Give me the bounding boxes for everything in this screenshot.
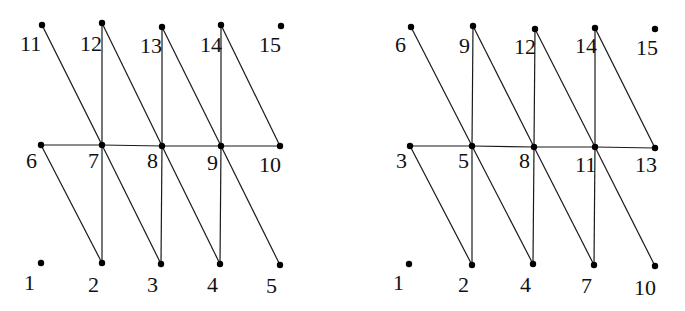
vertex-13 xyxy=(159,24,165,30)
vertex-8 xyxy=(159,143,165,149)
vertex-label: 13 xyxy=(140,33,162,58)
vertex-label: 9 xyxy=(459,33,470,58)
vertex-11 xyxy=(592,144,598,150)
vertex-label: 14 xyxy=(575,33,597,58)
vertex-label: 3 xyxy=(396,148,407,173)
vertex-1 xyxy=(406,261,412,267)
vertex-4 xyxy=(530,261,536,267)
vertex-label: 2 xyxy=(458,272,469,297)
vertex-label: 15 xyxy=(259,32,281,57)
vertex-6 xyxy=(408,24,414,30)
vertex-9 xyxy=(218,143,224,149)
vertex-5 xyxy=(277,262,283,268)
vertex-7 xyxy=(591,262,597,268)
vertex-4 xyxy=(217,261,223,267)
vertex-label: 5 xyxy=(266,273,277,298)
vertex-5 xyxy=(469,143,475,149)
vertex-label: 8 xyxy=(519,148,530,173)
vertex-15 xyxy=(652,26,658,32)
edge-9-4 xyxy=(220,146,221,264)
vertex-label: 11 xyxy=(20,31,41,56)
vertex-2 xyxy=(99,260,105,266)
edge-5-8 xyxy=(472,146,534,147)
left-graph: 123456789101112131415 xyxy=(20,20,284,298)
vertex-label: 7 xyxy=(88,148,99,173)
vertex-8 xyxy=(531,144,537,150)
vertex-label: 1 xyxy=(393,270,404,295)
vertex-label: 4 xyxy=(520,272,531,297)
vertex-12 xyxy=(532,26,538,32)
vertex-7 xyxy=(99,142,105,148)
edge-9-5 xyxy=(472,26,473,146)
vertex-label: 6 xyxy=(395,32,406,57)
vertex-label: 9 xyxy=(207,150,218,175)
vertex-6 xyxy=(38,142,44,148)
vertex-label: 7 xyxy=(581,273,592,298)
vertex-14 xyxy=(592,25,598,31)
vertex-label: 15 xyxy=(636,35,658,60)
vertex-label: 11 xyxy=(575,152,596,177)
vertex-label: 5 xyxy=(458,148,469,173)
vertex-10 xyxy=(277,143,283,149)
edge-11-13 xyxy=(595,147,655,148)
vertex-label: 2 xyxy=(88,272,99,297)
vertex-3 xyxy=(407,143,413,149)
vertex-14 xyxy=(218,22,224,28)
vertex-2 xyxy=(469,262,475,268)
right-graph: 124710358111369121415 xyxy=(393,23,658,300)
vertex-11 xyxy=(39,22,45,28)
vertex-label: 3 xyxy=(147,272,158,297)
edge-8-3 xyxy=(161,146,162,264)
graph-canvas: 123456789101112131415 124710358111369121… xyxy=(0,0,685,311)
vertex-label: 14 xyxy=(200,32,222,57)
vertex-13 xyxy=(652,145,658,151)
vertex-label: 12 xyxy=(514,34,536,59)
vertex-15 xyxy=(278,23,284,29)
vertex-label: 10 xyxy=(259,152,281,177)
vertex-label: 8 xyxy=(147,148,158,173)
vertex-label: 6 xyxy=(26,148,37,173)
vertex-label: 1 xyxy=(24,270,35,295)
vertex-12 xyxy=(99,20,105,26)
vertex-3 xyxy=(158,261,164,267)
vertex-10 xyxy=(652,263,658,269)
vertex-9 xyxy=(470,23,476,29)
vertex-label: 12 xyxy=(80,31,102,56)
edge-8-4 xyxy=(533,147,534,264)
vertex-label: 4 xyxy=(207,272,218,297)
vertex-1 xyxy=(38,260,44,266)
edge-7-8 xyxy=(102,145,162,146)
vertex-label: 13 xyxy=(635,152,657,177)
vertex-label: 10 xyxy=(634,275,656,300)
